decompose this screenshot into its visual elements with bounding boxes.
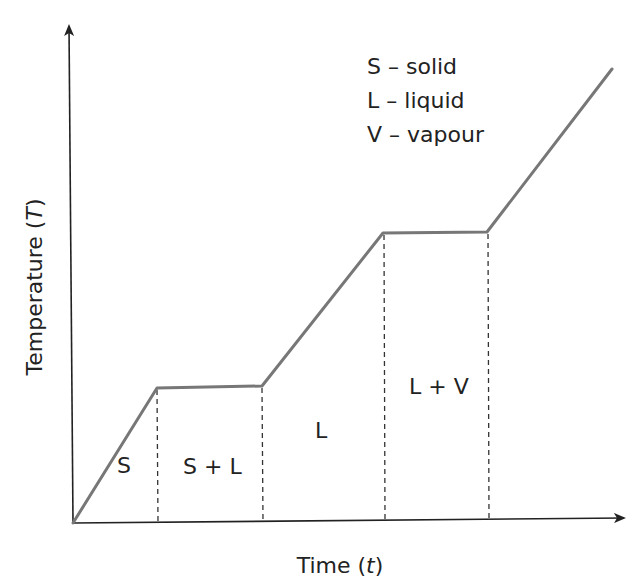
heating-curve-line [73, 69, 612, 523]
y-axis-label: Temperature (T) [22, 199, 47, 376]
legend-item-solid: S – solid [367, 50, 484, 84]
boundary-melting-end [262, 388, 263, 521]
region-label-solid: S [117, 455, 131, 477]
boundary-boiling-end [488, 234, 489, 519]
y-axis [69, 26, 73, 523]
legend: S – solid L – liquid V – vapour [367, 50, 484, 152]
region-label-liquid: L [315, 420, 327, 442]
legend-item-vapour: V – vapour [367, 118, 484, 152]
heating-curve-plot [0, 0, 638, 588]
region-label-solid-liquid: S + L [183, 456, 242, 478]
legend-item-liquid: L – liquid [367, 84, 484, 118]
x-axis-label: Time (t) [297, 553, 384, 578]
boundary-melting-start [157, 390, 158, 522]
region-label-liquid-vapour: L + V [409, 376, 469, 398]
boundary-boiling-start [384, 235, 385, 520]
x-axis [73, 518, 624, 523]
